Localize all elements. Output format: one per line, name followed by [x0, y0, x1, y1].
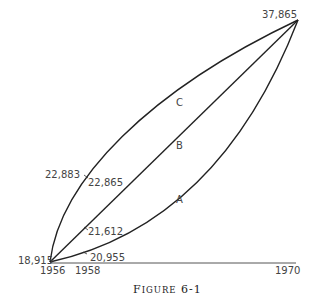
- b-upper-value-label: 22,865: [88, 178, 123, 188]
- c-value-label: 22,883: [45, 170, 80, 180]
- x-tick-1956: 1956: [40, 266, 65, 276]
- x-tick-1970: 1970: [275, 266, 300, 276]
- figure-caption: FIGURE 6-1: [133, 283, 202, 296]
- caption-initial: F: [133, 283, 142, 296]
- b-value-label: 21,612: [88, 227, 123, 237]
- end-value-label: 37,865: [262, 10, 297, 20]
- caption-word: IGURE: [142, 285, 177, 295]
- curve-a-label: A: [176, 195, 183, 205]
- a-value-label: 20,955: [90, 253, 125, 263]
- curve-c-label: C: [176, 98, 183, 108]
- curve-b-label: B: [176, 141, 183, 151]
- caption-number: 6-1: [181, 283, 202, 296]
- x-tick-1958: 1958: [75, 266, 100, 276]
